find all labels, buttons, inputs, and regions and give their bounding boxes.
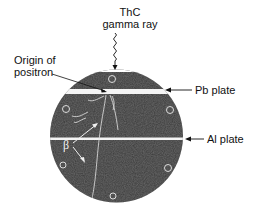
origin-label-line1: Origin of: [14, 54, 56, 66]
gamma-ray-arrowhead-icon: [113, 65, 118, 70]
source-label: ThC: [100, 6, 160, 18]
cloud-chamber: [40, 60, 200, 209]
gamma-ray-label: gamma ray: [92, 18, 168, 30]
pb-plate-label: Pb plate: [195, 84, 235, 96]
origin-label-line2: positron: [14, 66, 53, 78]
al-arrowhead-icon: [185, 137, 191, 142]
al-plate-label: Al plate: [207, 133, 244, 145]
cloud-chamber-diagram: [0, 0, 255, 209]
gamma-ray-wave-icon: [114, 33, 117, 66]
beta-label: β: [63, 139, 69, 151]
